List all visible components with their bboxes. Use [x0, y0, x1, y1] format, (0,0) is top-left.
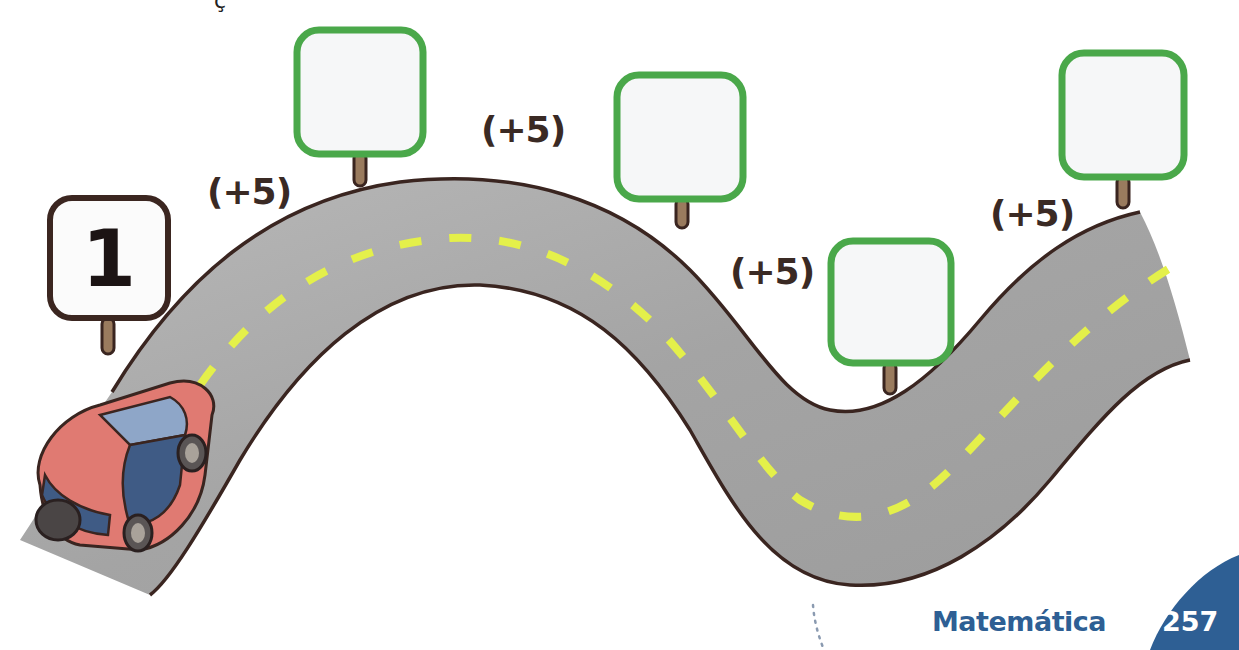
sign-2[interactable] [297, 30, 423, 186]
workbook-page: ç [0, 0, 1239, 650]
page-number: 257 [1162, 606, 1218, 637]
step-label-3: (+5) [730, 254, 814, 290]
step-label-2: (+5) [481, 112, 565, 148]
sign-5[interactable] [1062, 53, 1184, 208]
sign-3[interactable] [617, 75, 743, 228]
step-label-1: (+5) [207, 174, 291, 210]
dotted-guide-line [813, 605, 824, 650]
subject-title: Matemática [932, 606, 1106, 637]
sign-1-value: 1 [50, 220, 168, 298]
road-illustration [0, 0, 1239, 650]
step-label-4: (+5) [990, 196, 1074, 232]
